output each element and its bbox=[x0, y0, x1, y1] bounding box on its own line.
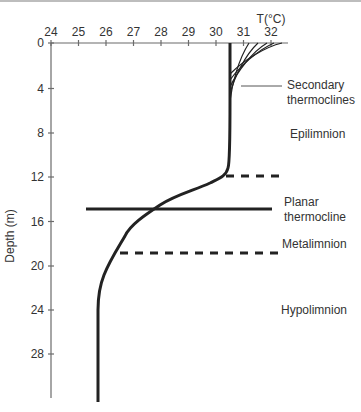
y-tick-label: 0 bbox=[37, 36, 44, 50]
x-tick-label: 28 bbox=[154, 25, 168, 39]
x-tick-label: 27 bbox=[127, 25, 141, 39]
y-tick-label: 16 bbox=[31, 215, 45, 229]
secondary-thermocline-lines bbox=[230, 43, 282, 101]
x-tick-label: 31 bbox=[237, 25, 251, 39]
x-tick-label: 32 bbox=[264, 25, 278, 39]
planar-thermocline-label: Planar bbox=[284, 195, 319, 209]
chart: 24 25 26 27 28 29 30 31 32 T(°C) 0 4 8 1… bbox=[0, 0, 361, 412]
y-tick-label: 4 bbox=[37, 82, 44, 96]
secondary-thermoclines-label: thermoclines bbox=[287, 93, 355, 107]
epilimnion-label: Epilimnion bbox=[290, 127, 345, 141]
annotations: Secondary thermoclines Epilimnion Planar… bbox=[281, 78, 355, 317]
planar-thermocline-label: thermocline bbox=[284, 210, 346, 224]
x-tick-label: 30 bbox=[209, 25, 223, 39]
x-tick-label: 29 bbox=[182, 25, 196, 39]
axes bbox=[48, 40, 288, 398]
x-tick-label: 26 bbox=[99, 25, 113, 39]
hypolimnion-label: Hypolimnion bbox=[281, 303, 347, 317]
temperature-profile-curve bbox=[98, 43, 230, 402]
y-tick-label: 24 bbox=[31, 303, 45, 317]
x-tick-labels: 24 25 26 27 28 29 30 31 32 bbox=[44, 25, 278, 39]
y-tick-label: 8 bbox=[37, 126, 44, 140]
x-axis-title: T(°C) bbox=[257, 12, 286, 26]
metalimnion-label: Metalimnion bbox=[282, 237, 347, 251]
x-tick-label: 24 bbox=[44, 25, 58, 39]
y-tick-label: 28 bbox=[31, 347, 45, 361]
y-tick-labels: 0 4 8 12 16 20 24 28 bbox=[31, 36, 45, 361]
secondary-thermoclines-label: Secondary bbox=[287, 78, 344, 92]
y-tick-label: 12 bbox=[31, 170, 45, 184]
y-tick-label: 20 bbox=[31, 259, 45, 273]
x-tick-label: 25 bbox=[72, 25, 86, 39]
y-axis-title: Depth (m) bbox=[3, 209, 17, 262]
